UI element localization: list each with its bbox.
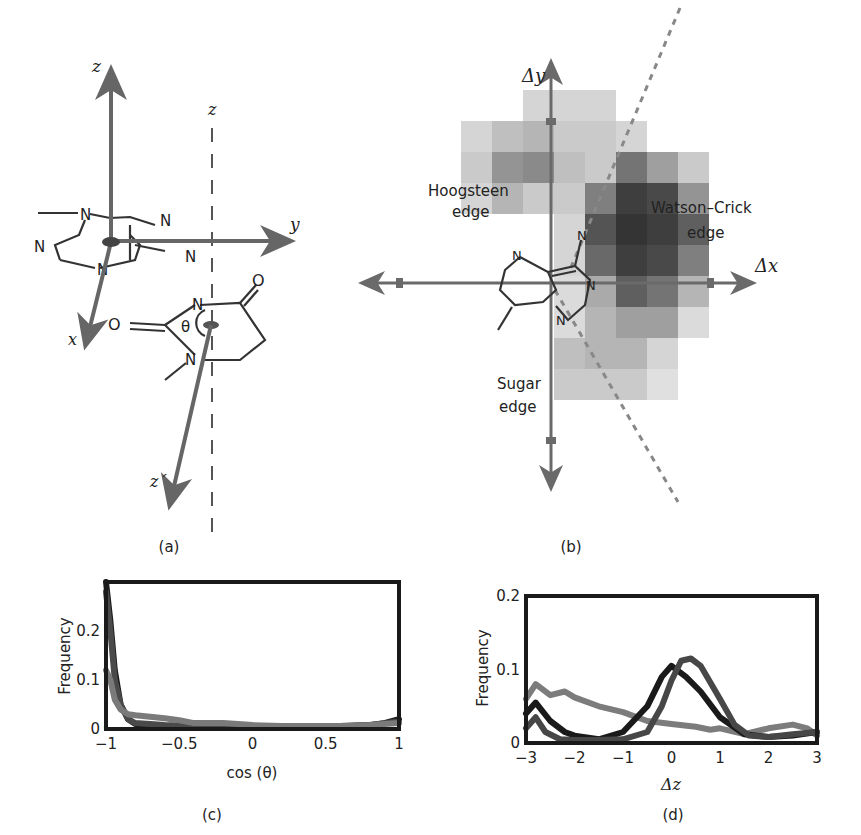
y-tick-label: 0 — [510, 734, 520, 752]
y-tick-label: 0.2 — [76, 622, 100, 640]
watson-crick-edge-label: edge — [687, 224, 725, 242]
panel-c-svg: −1−0.500.5100.10.2 Frequency cos (θ) — [0, 560, 430, 835]
heatmap-cell — [554, 183, 585, 214]
tick-mark — [546, 118, 556, 125]
panel-b-caption: (b) — [551, 538, 591, 556]
atom-label: N — [80, 206, 91, 224]
hoogsteen-edge-label: Hoogsteen — [428, 182, 509, 200]
panel-d-chart: −3−2−1012300.10.2 Frequency Δz — [440, 560, 861, 835]
heatmap-cell — [523, 152, 554, 183]
heatmap-cell — [616, 183, 647, 214]
panel-a-svg: z N N N N N N N O O θ — [0, 40, 330, 560]
heatmap-cell — [554, 276, 585, 307]
heatmap-cell — [585, 245, 616, 276]
heatmap-cell — [647, 214, 678, 245]
x-tick-label: 1 — [394, 735, 404, 753]
heatmap-cell — [461, 152, 492, 183]
y-tick-label: 0.1 — [496, 661, 520, 679]
heatmap-cell — [647, 152, 678, 183]
heatmap-cell — [616, 276, 647, 307]
atom-label: O — [252, 271, 265, 290]
chart-d-ylabel: Frequency — [474, 629, 492, 707]
heatmap-cell — [523, 90, 554, 121]
atom-label: N — [185, 351, 196, 369]
atom-label: N — [586, 278, 596, 293]
x-tick-label: 0 — [248, 735, 258, 753]
hoogsteen-edge-label: edge — [452, 203, 490, 221]
chart-series-line — [526, 684, 817, 735]
heatmap-cell — [585, 214, 616, 245]
heatmap-cell — [647, 276, 678, 307]
panel-b-svg: Δy Δx N N N N Hoogsteen edge Watson–Cric… — [340, 0, 780, 560]
y-axis-label: y — [289, 214, 300, 234]
heatmap-cell — [616, 121, 647, 152]
atom-label: N — [185, 248, 196, 266]
theta-label: θ — [181, 318, 190, 336]
atom-label: N — [192, 296, 203, 314]
heatmap-cell — [461, 121, 492, 152]
tick-mark — [707, 278, 714, 288]
heatmap-cell — [554, 152, 585, 183]
dashed-z-label: z — [207, 100, 217, 119]
x-tick-label: 1 — [715, 749, 725, 767]
origin-dot — [102, 237, 120, 247]
atom-label: N — [512, 248, 522, 263]
chart-c-frame — [106, 582, 399, 729]
y-tick-label: 0.2 — [496, 587, 520, 605]
heatmap-cell — [678, 245, 709, 276]
heatmap-cell — [523, 183, 554, 214]
heatmap-cell — [616, 307, 647, 338]
heatmap-cell — [647, 307, 678, 338]
heatmap-cell — [585, 121, 616, 152]
chart-series-line — [106, 592, 399, 727]
x-tick-label: 3 — [812, 749, 822, 767]
z-axis-label: z — [91, 56, 102, 76]
chart-series-line — [106, 582, 399, 727]
panel-c-chart: −1−0.500.5100.10.2 Frequency cos (θ) — [0, 560, 430, 835]
y-tick-label: 0.1 — [76, 671, 100, 689]
heatmap-cell — [616, 152, 647, 183]
watson-crick-edge-label: Watson–Crick — [651, 199, 752, 217]
dx-axis-label: Δx — [754, 255, 778, 276]
y-tick-label: 0 — [90, 720, 100, 738]
tick-mark — [546, 437, 556, 444]
chart-series-line — [106, 670, 399, 726]
chart-c-ticks: −1−0.500.5100.10.2 — [76, 622, 404, 753]
atom-label: N — [34, 238, 45, 256]
panel-a-caption: (a) — [149, 538, 189, 556]
heatmap-cell — [492, 121, 523, 152]
heatmap-cell — [678, 152, 709, 183]
atom-label: N — [556, 313, 566, 328]
panel-c-caption: (c) — [192, 806, 232, 824]
x-tick-label: 0.5 — [314, 735, 338, 753]
atom-label: O — [108, 315, 121, 334]
heatmap-cell — [585, 90, 616, 121]
x-tick-label: 2 — [764, 749, 774, 767]
heatmap-cell — [554, 369, 585, 400]
heatmap-cell — [647, 245, 678, 276]
heatmap-cells — [461, 90, 709, 400]
heatmap-cell — [647, 369, 678, 400]
x-tick-label: −2 — [563, 749, 585, 767]
panel-a-coordinate-diagram: z N N N N N N N O O θ — [0, 40, 330, 560]
panel-d-svg: −3−2−1012300.10.2 Frequency Δz — [440, 560, 861, 835]
heatmap-cell — [554, 338, 585, 369]
heatmap-cell — [647, 338, 678, 369]
atom-label: N — [160, 212, 171, 230]
heatmap-cell — [523, 121, 554, 152]
chart-d-series — [526, 659, 817, 741]
chart-c-xlabel: cos (θ) — [227, 764, 278, 782]
heatmap-cell — [585, 307, 616, 338]
sugar-edge-label: Sugar — [497, 375, 542, 393]
heatmap-cell — [616, 214, 647, 245]
heatmap-cell — [678, 276, 709, 307]
heatmap-cell — [616, 369, 647, 400]
z-prime-axis-label: z´ — [149, 472, 167, 491]
x-tick-label: −1 — [612, 749, 634, 767]
heatmap-cell — [616, 338, 647, 369]
panel-b-heatmap: Δy Δx N N N N Hoogsteen edge Watson–Cric… — [340, 0, 780, 560]
heatmap-cell — [585, 338, 616, 369]
sugar-edge-label: edge — [499, 398, 537, 416]
heatmap-cell — [616, 245, 647, 276]
heatmap-cell — [554, 90, 585, 121]
